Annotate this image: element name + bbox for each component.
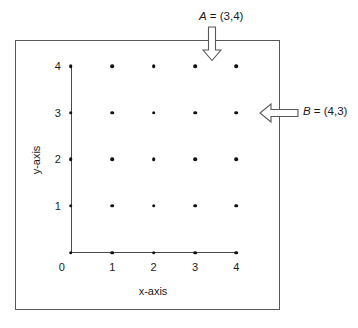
lattice-point bbox=[235, 111, 239, 115]
lattice-point bbox=[69, 158, 73, 162]
lattice-point bbox=[110, 64, 114, 68]
annotation-a-value: (3,4) bbox=[220, 10, 244, 22]
lattice-point bbox=[69, 111, 73, 115]
y-tick-label: 2 bbox=[55, 154, 61, 165]
x-tick-label: 3 bbox=[192, 262, 198, 273]
lattice-point bbox=[152, 64, 156, 68]
lattice-point bbox=[193, 158, 197, 162]
annotation-a-symbol: A bbox=[199, 10, 207, 22]
annotation-b-equals: = bbox=[311, 105, 324, 117]
lattice-point bbox=[152, 158, 156, 162]
lattice-point bbox=[110, 204, 114, 208]
lattice-point bbox=[69, 204, 73, 208]
x-axis-title: x-axis bbox=[139, 285, 168, 297]
lattice-point bbox=[69, 64, 73, 68]
lattice-point bbox=[110, 111, 114, 115]
lattice-point bbox=[193, 251, 197, 255]
y-tick-label: 4 bbox=[55, 61, 61, 72]
arrow-left-icon bbox=[259, 103, 299, 123]
lattice-point bbox=[110, 251, 114, 255]
y-tick-label: 3 bbox=[55, 107, 61, 118]
lattice-point bbox=[193, 204, 197, 208]
lattice-point bbox=[110, 158, 114, 162]
annotation-b-symbol: B bbox=[303, 105, 311, 117]
lattice-point bbox=[152, 111, 156, 115]
lattice-point bbox=[69, 251, 73, 255]
annotation-a-equals: = bbox=[207, 10, 220, 22]
lattice-point bbox=[193, 64, 197, 68]
figure-frame bbox=[15, 40, 280, 310]
lattice-point bbox=[193, 111, 197, 115]
lattice-point bbox=[152, 251, 156, 255]
lattice-point bbox=[235, 158, 239, 162]
annotation-b-value: (4,3) bbox=[324, 105, 348, 117]
origin-label: 0 bbox=[59, 262, 65, 273]
y-axis-title: y-axis bbox=[30, 146, 42, 175]
annotation-label-b: B = (4,3) bbox=[303, 106, 347, 118]
annotation-label-a: A = (3,4) bbox=[199, 11, 243, 23]
y-tick-label: 1 bbox=[55, 200, 61, 211]
arrow-down-icon bbox=[201, 26, 223, 62]
x-tick-label: 1 bbox=[109, 262, 115, 273]
lattice-point bbox=[235, 251, 239, 255]
lattice-point bbox=[235, 64, 239, 68]
x-tick-label: 2 bbox=[151, 262, 157, 273]
x-tick-label: 4 bbox=[233, 262, 239, 273]
lattice-point bbox=[152, 204, 156, 208]
coordinate-lattice-figure: 123401234 x-axis y-axis A = (3,4) B = (4… bbox=[0, 0, 358, 328]
lattice-point bbox=[235, 204, 239, 208]
